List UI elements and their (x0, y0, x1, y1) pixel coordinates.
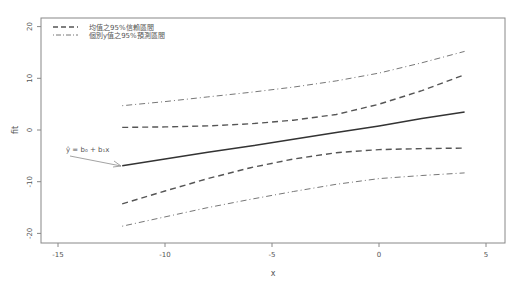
x-tick-label: -10 (159, 251, 170, 259)
x-tick-label: -15 (52, 251, 63, 259)
plot-frame (41, 18, 505, 243)
x-tick-label: 5 (484, 251, 488, 259)
y-axis: -20-1001020 (26, 22, 41, 239)
x-tick-label: 0 (377, 251, 381, 259)
legend-label-prediction: 個別y值之95%預測區間 (89, 31, 165, 40)
series-line-3 (122, 51, 464, 105)
x-axis: -15-10-505 (52, 243, 488, 259)
annotation-label: ŷ = b₀ + b₁x (66, 146, 109, 154)
y-axis-label: fit (11, 126, 20, 134)
x-tick-label: -5 (269, 251, 276, 259)
y-tick-label: 0 (26, 128, 34, 132)
x-axis-label: x (271, 269, 276, 278)
arrow-head-icon (113, 161, 121, 167)
y-tick-label: 10 (26, 74, 34, 83)
chart: -15-10-505 -20-1001020 x fit 均值之95%信賴區間 … (0, 0, 530, 284)
annotation-arrow (70, 156, 121, 166)
legend: 均值之95%信賴區間 個別y值之95%預測區間 (53, 23, 165, 40)
legend-label-confidence: 均值之95%信賴區間 (89, 23, 154, 32)
series-line-4 (122, 173, 464, 226)
y-tick-label: 20 (26, 22, 34, 31)
y-tick-label: -20 (26, 228, 34, 239)
y-tick-label: -10 (26, 176, 34, 187)
series-lines (122, 51, 464, 226)
annotation: ŷ = b₀ + b₁x (66, 146, 121, 167)
